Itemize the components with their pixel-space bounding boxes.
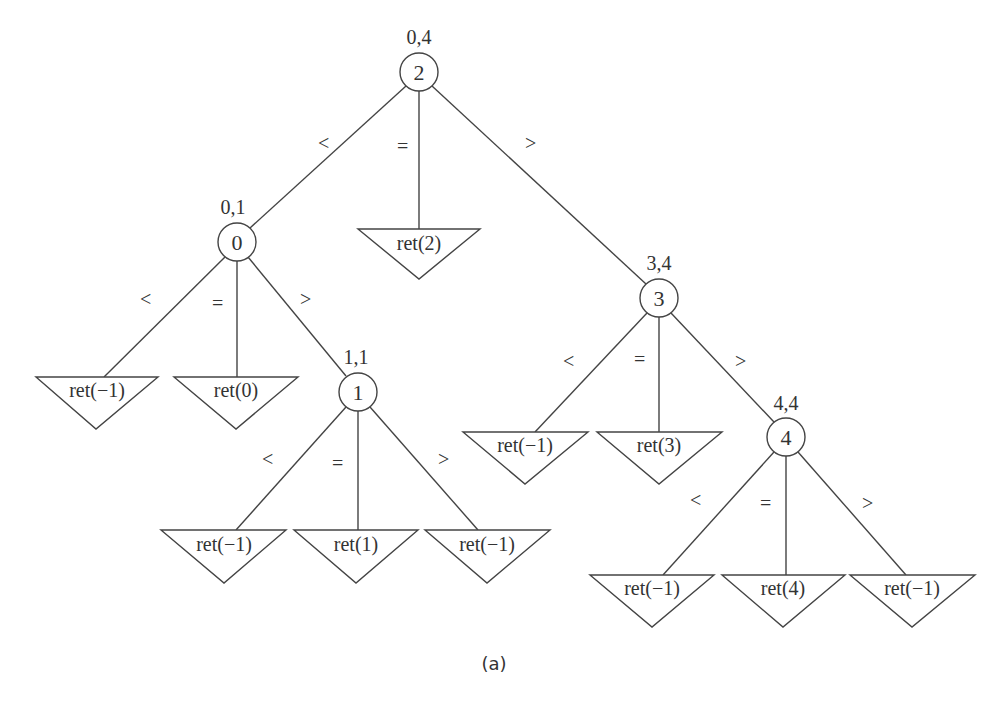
op-lt-1: <: [262, 448, 273, 470]
op-eq-4: =: [760, 492, 771, 514]
edge-0-1: [248, 257, 346, 376]
edge-3-lt: [535, 313, 647, 432]
leaf-4-eq: ret(4): [722, 575, 845, 627]
leaf-label: ret(−1): [459, 533, 515, 556]
leaf-0-eq: ret(0): [174, 377, 298, 429]
edge-2-3: [432, 86, 646, 284]
op-lt-2: <: [318, 132, 329, 154]
node-range: 3,4: [647, 252, 672, 274]
leaf-label: ret(−1): [497, 434, 553, 457]
leaf-label: ret(−1): [196, 533, 252, 556]
figure-caption: (a): [481, 653, 506, 674]
tree-edges: [104, 86, 906, 575]
edge-1-gt: [370, 407, 478, 530]
op-lt-0: <: [140, 288, 151, 310]
leaf-0-lt: ret(−1): [36, 377, 158, 429]
leaf-label: ret(−1): [884, 577, 940, 600]
node-range: 1,1: [344, 346, 369, 368]
op-gt-2: >: [525, 132, 536, 154]
node-value: 3: [654, 286, 665, 311]
leaf-ret2: ret(2): [358, 229, 480, 279]
node-range: 4,4: [774, 392, 799, 414]
leaf-1-lt: ret(−1): [161, 530, 286, 583]
op-eq-3: =: [634, 348, 645, 370]
edge-2-0: [250, 86, 406, 228]
leaf-4-lt: ret(−1): [590, 575, 714, 627]
node-2: 0,4 2: [400, 26, 438, 91]
leaf-label: ret(2): [397, 232, 441, 255]
edge-4-gt: [798, 452, 906, 575]
node-value: 1: [353, 380, 364, 405]
leaf-1-eq: ret(1): [294, 530, 418, 583]
node-1: 1,1 1: [339, 346, 377, 411]
leaf-label: ret(0): [214, 379, 258, 402]
leaf-label: ret(−1): [69, 379, 125, 402]
leaf-1-gt: ret(−1): [425, 530, 550, 583]
leaf-3-lt: ret(−1): [463, 432, 588, 484]
leaf-3-eq: ret(3): [597, 432, 722, 484]
edge-4-lt: [663, 452, 774, 575]
op-gt-1: >: [438, 448, 449, 470]
leaf-label: ret(3): [637, 434, 681, 457]
ternary-search-tree-diagram: < = > < = > < = > < = > < = > ret(2) ret…: [0, 0, 1000, 708]
node-value: 2: [414, 60, 425, 85]
op-lt-4: <: [690, 489, 701, 511]
edge-3-4: [671, 313, 774, 422]
op-eq-0: =: [212, 292, 223, 314]
edge-1-lt: [236, 407, 346, 530]
node-4: 4,4 4: [767, 392, 805, 456]
op-gt-3: >: [735, 350, 746, 372]
op-eq-1: =: [332, 452, 343, 474]
op-gt-0: >: [300, 288, 311, 310]
node-value: 0: [232, 230, 243, 255]
node-0: 0,1 0: [218, 196, 256, 261]
leaf-4-gt: ret(−1): [850, 575, 975, 627]
edge-0-lt: [104, 257, 225, 377]
op-lt-3: <: [563, 350, 574, 372]
op-gt-4: >: [862, 492, 873, 514]
node-range: 0,4: [407, 26, 432, 48]
node-3: 3,4 3: [640, 252, 678, 317]
node-range: 0,1: [221, 196, 246, 218]
op-eq-2: =: [397, 135, 408, 157]
leaf-label: ret(−1): [624, 577, 680, 600]
leaf-label: ret(4): [761, 577, 805, 600]
leaf-label: ret(1): [334, 533, 378, 556]
node-value: 4: [781, 425, 792, 450]
